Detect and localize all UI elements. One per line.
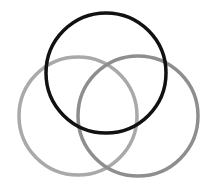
top-circle	[46, 13, 166, 133]
venn-svg	[0, 0, 214, 193]
venn-diagram	[0, 0, 214, 193]
